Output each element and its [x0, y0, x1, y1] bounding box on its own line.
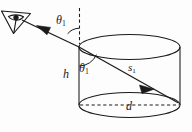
refraction-diagram: θ1 θ1 h s1 d [0, 0, 192, 132]
label-diameter-d: d [126, 100, 132, 112]
angle-arc-incident [68, 28, 80, 34]
ray-inside-segment [79, 47, 179, 103]
ray-arrowhead-inward [140, 85, 155, 94]
diagram-canvas [0, 0, 192, 132]
eye-icon-pupil [14, 16, 18, 20]
label-path-s1: s1 [128, 62, 136, 75]
label-theta-incident: θ1 [56, 14, 66, 28]
ray-arrowhead-outward [37, 26, 51, 35]
label-height-h: h [63, 68, 69, 80]
label-theta-internal: θ1 [79, 62, 89, 76]
ray-outside-segment [22, 20, 79, 47]
